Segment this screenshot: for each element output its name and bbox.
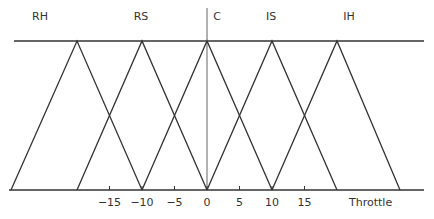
- set-label-rh: RH: [32, 10, 48, 23]
- membership-triangle-rh: [11, 41, 142, 190]
- throttle-axis-label: Throttle: [349, 196, 392, 209]
- tick-label: 10: [265, 196, 279, 209]
- membership-triangle-rs: [77, 41, 207, 190]
- set-label-ih: IH: [343, 10, 355, 23]
- set-label-is: IS: [266, 10, 276, 23]
- tick-label: −10: [130, 196, 153, 209]
- membership-triangles: [11, 41, 400, 190]
- tick-label: 15: [298, 196, 312, 209]
- set-label-rs: RS: [134, 10, 149, 23]
- membership-triangle-is: [207, 41, 337, 190]
- membership-triangle-ih: [272, 41, 400, 190]
- tick-label: −15: [98, 196, 121, 209]
- tick-label: 0: [204, 196, 211, 209]
- set-label-c: C: [213, 10, 221, 23]
- membership-diagram: [0, 0, 434, 219]
- tick-label: 5: [236, 196, 243, 209]
- tick-label: −5: [166, 196, 182, 209]
